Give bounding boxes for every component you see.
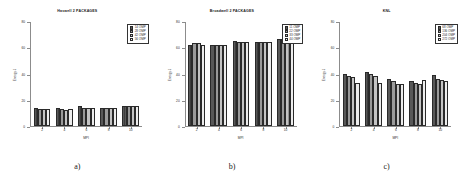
- legend-swatch: [130, 26, 133, 29]
- legend-swatch: [438, 38, 441, 41]
- y-axis-label: Energy J: [13, 68, 17, 81]
- y-axis-tick-label: 20: [176, 99, 180, 103]
- x-axis-tick-label: 6: [233, 128, 250, 132]
- y-axis-tick: 20: [182, 101, 185, 102]
- bar: [245, 42, 249, 126]
- y-axis-tick: 0: [182, 127, 185, 128]
- y-axis-tick: 40: [27, 75, 30, 76]
- legend-haswell: 14 OMP28 OMP42 OMP56 OMP: [127, 24, 149, 44]
- legend-swatch: [438, 30, 441, 33]
- bar-group: 2: [343, 22, 360, 126]
- x-axis-tick-label: 8: [100, 128, 117, 132]
- bar-group: 4: [56, 22, 73, 126]
- x-axis-tick-label: 8: [409, 128, 426, 132]
- y-axis-label: Energy J: [323, 68, 327, 81]
- bar: [400, 84, 404, 126]
- bar: [113, 108, 117, 126]
- bar: [46, 109, 50, 126]
- legend-item: 56 OMP: [130, 38, 146, 41]
- bar: [68, 109, 72, 126]
- bar: [267, 42, 271, 126]
- plot-area-broadwell: Energy J MPI 246810 020406080: [185, 22, 297, 127]
- plot-area-haswell: Energy J MPI 246810 020406080: [30, 22, 142, 127]
- y-axis-tick: 40: [336, 75, 339, 76]
- bar: [355, 83, 359, 126]
- x-axis-tick-label: 6: [387, 128, 404, 132]
- bar-group: 6: [78, 22, 95, 126]
- y-axis-tick-label: 80: [331, 20, 335, 24]
- bar: [91, 108, 95, 126]
- panel-letter: a): [0, 162, 155, 171]
- x-axis-label: MPI: [185, 136, 297, 140]
- y-axis-tick-label: 60: [21, 46, 25, 50]
- panel-knl: KNL Energy J MPI 246810 020406080 68 OMP…: [309, 0, 464, 179]
- x-axis-tick-label: 6: [78, 128, 95, 132]
- y-axis-tick: 0: [336, 127, 339, 128]
- bar: [135, 106, 139, 126]
- bar-group: 8: [100, 22, 117, 126]
- y-axis-tick-label: 60: [331, 46, 335, 50]
- panel-title: KNL: [309, 9, 464, 13]
- legend-label: 56 OMP: [135, 38, 146, 41]
- legend-broadwell: 11 OMP22 OMP33 OMP44 OMP: [282, 24, 304, 44]
- legend-swatch: [285, 34, 288, 37]
- bar: [378, 83, 382, 126]
- x-axis-tick-label: 4: [210, 128, 227, 132]
- legend-swatch: [130, 38, 133, 41]
- x-axis-tick-label: 2: [34, 128, 51, 132]
- x-axis-label: MPI: [339, 136, 451, 140]
- panel-haswell: Haswell 2 PACKAGES Energy J MPI 246810 0…: [0, 0, 155, 179]
- bar-group: 8: [255, 22, 272, 126]
- y-axis-tick-label: 0: [23, 125, 25, 129]
- bar-group: 4: [365, 22, 382, 126]
- x-axis-tick-label: 8: [255, 128, 272, 132]
- y-axis-tick-label: 40: [176, 73, 180, 77]
- y-axis-tick-label: 60: [176, 46, 180, 50]
- y-axis-tick-label: 80: [21, 20, 25, 24]
- legend-item: 272 OMP: [438, 38, 455, 41]
- y-axis-tick: 60: [336, 48, 339, 49]
- y-axis-tick: 0: [27, 127, 30, 128]
- legend-swatch: [285, 26, 288, 29]
- panel-title: Broadwell 2 PACKAGES: [155, 9, 310, 13]
- legend-swatch: [130, 30, 133, 33]
- legend-item: 44 OMP: [285, 38, 301, 41]
- bar-groups: 246810: [186, 22, 297, 126]
- legend-label: 44 OMP: [289, 38, 300, 41]
- bar-group: 2: [188, 22, 205, 126]
- panel-letter: b): [155, 162, 310, 171]
- y-axis-tick: 40: [182, 75, 185, 76]
- x-axis-tick-label: 10: [277, 128, 294, 132]
- bar: [223, 45, 227, 126]
- panel-letter: c): [309, 162, 464, 171]
- panel-title: Haswell 2 PACKAGES: [0, 9, 155, 13]
- x-axis-tick-label: 2: [343, 128, 360, 132]
- legend-label: 272 OMP: [442, 38, 455, 41]
- y-axis-tick: 20: [336, 101, 339, 102]
- x-axis-tick-label: 4: [365, 128, 382, 132]
- legend-swatch: [285, 38, 288, 41]
- x-axis-label: MPI: [30, 136, 142, 140]
- bar: [444, 81, 448, 126]
- y-axis-tick: 80: [182, 22, 185, 23]
- y-axis-tick: 80: [27, 22, 30, 23]
- x-axis-tick-label: 10: [432, 128, 449, 132]
- y-axis-label: Energy J: [168, 68, 172, 81]
- x-axis-tick-label: 10: [122, 128, 139, 132]
- bar: [290, 39, 294, 126]
- x-axis-tick-label: 4: [56, 128, 73, 132]
- panel-broadwell: Broadwell 2 PACKAGES Energy J MPI 246810…: [155, 0, 310, 179]
- y-axis-tick: 60: [182, 48, 185, 49]
- y-axis-tick-label: 20: [331, 99, 335, 103]
- bar-group: 6: [233, 22, 250, 126]
- bar-group: 4: [210, 22, 227, 126]
- y-axis-tick: 60: [27, 48, 30, 49]
- y-axis-tick: 80: [336, 22, 339, 23]
- y-axis-tick-label: 40: [21, 73, 25, 77]
- bar-groups: 246810: [31, 22, 142, 126]
- y-axis-tick-label: 80: [176, 20, 180, 24]
- y-axis-tick-label: 40: [331, 73, 335, 77]
- bar: [422, 80, 426, 126]
- figure-three-panel-bar-charts: Haswell 2 PACKAGES Energy J MPI 246810 0…: [0, 0, 464, 179]
- legend-swatch: [438, 34, 441, 37]
